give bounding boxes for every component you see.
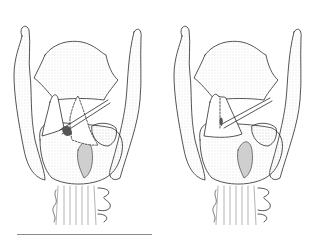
illustration-panel-right	[160, 0, 320, 225]
larynx-illustration-left	[0, 0, 160, 225]
divider-rule	[17, 234, 152, 235]
larynx-illustration-right	[160, 0, 320, 225]
illustration-panel-left	[0, 0, 160, 225]
